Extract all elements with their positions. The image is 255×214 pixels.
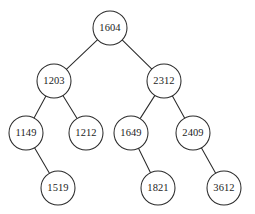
tree-node-1821[interactable]: 1821 (141, 171, 175, 205)
tree-node-2312[interactable]: 2312 (147, 64, 181, 98)
tree-node-1649[interactable]: 1649 (114, 116, 148, 150)
tree-node-1203[interactable]: 1203 (37, 64, 71, 98)
tree-edge-1203-1149 (34, 96, 46, 118)
node-label-2312: 2312 (153, 75, 174, 86)
tree-node-1519[interactable]: 1519 (41, 171, 75, 205)
node-label-1203: 1203 (43, 75, 64, 86)
tree-edge-1649-1821 (138, 148, 150, 172)
node-label-3612: 3612 (213, 182, 234, 193)
node-label-1821: 1821 (147, 182, 168, 193)
node-label-2409: 2409 (182, 127, 203, 138)
node-label-1212: 1212 (75, 127, 96, 138)
tree-edge-1604-2312 (122, 40, 152, 69)
tree-node-1212[interactable]: 1212 (69, 116, 103, 150)
tree-edge-1604-1203 (66, 40, 97, 70)
tree-node-1604[interactable]: 1604 (93, 11, 127, 45)
node-label-1519: 1519 (47, 182, 68, 193)
tree-edge-1203-1212 (63, 95, 77, 118)
tree-node-2409[interactable]: 2409 (176, 116, 210, 150)
tree-edge-1149-1519 (35, 148, 50, 174)
node-label-1604: 1604 (99, 22, 121, 33)
node-label-1149: 1149 (15, 127, 36, 138)
tree-edge-2409-3612 (201, 148, 215, 173)
tree-node-1149[interactable]: 1149 (9, 116, 43, 150)
tree-edge-2312-2409 (172, 96, 184, 118)
node-label-1649: 1649 (120, 127, 141, 138)
binary-tree-figure: 1604120323121149121216492409151918213612 (0, 0, 255, 214)
edge-layer (34, 40, 216, 174)
node-layer: 1604120323121149121216492409151918213612 (9, 11, 241, 205)
tree-node-3612[interactable]: 3612 (207, 171, 241, 205)
tree-edge-2312-1649 (140, 95, 155, 118)
tree-canvas: 1604120323121149121216492409151918213612 (0, 0, 255, 214)
